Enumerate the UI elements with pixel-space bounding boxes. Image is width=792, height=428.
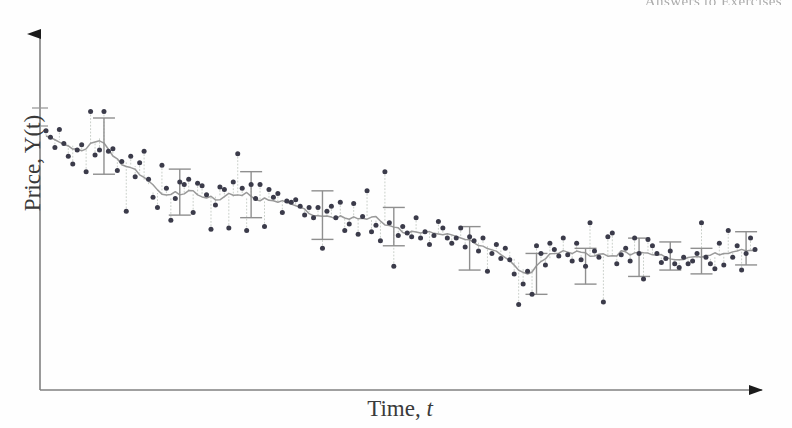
observation-marker (574, 241, 579, 246)
observation-marker (101, 109, 106, 114)
observation-marker (405, 231, 410, 236)
observation-marker (168, 218, 173, 223)
error-bars-layer (93, 118, 757, 294)
observation-marker (182, 182, 187, 187)
observation-marker (467, 234, 472, 239)
observation-marker (119, 159, 124, 164)
observation-marker (418, 236, 423, 241)
observation-marker (503, 246, 508, 251)
observation-marker (293, 197, 298, 202)
observation-marker (735, 243, 740, 248)
observation-marker (485, 269, 490, 274)
observation-marker (48, 135, 53, 140)
observation-marker (258, 182, 263, 187)
observation-marker (266, 187, 271, 192)
observation-marker (253, 196, 258, 201)
observation-marker (431, 233, 436, 238)
observation-marker (641, 277, 646, 282)
observation-marker (521, 282, 526, 287)
observation-marker (672, 261, 677, 266)
observation-marker (142, 149, 147, 154)
observation-marker (516, 302, 521, 307)
observation-marker (324, 209, 329, 214)
observation-marker (601, 300, 606, 305)
observation-marker (231, 179, 236, 184)
observation-marker (244, 228, 249, 233)
observation-marker (249, 182, 254, 187)
observation-marker (208, 227, 213, 232)
observation-marker (579, 257, 584, 262)
x-axis-title-variable: t (426, 396, 432, 421)
observation-marker (708, 261, 713, 266)
observation-marker (329, 204, 334, 209)
observation-marker (382, 169, 387, 174)
observation-marker (458, 225, 463, 230)
observation-marker (52, 145, 57, 150)
observation-marker (552, 247, 557, 252)
observation-marker (289, 200, 294, 205)
observation-marker (333, 215, 338, 220)
observation-marker (427, 242, 432, 247)
observation-marker (534, 243, 539, 248)
observation-marker (619, 252, 624, 257)
observation-marker (494, 242, 499, 247)
observation-marker (632, 236, 637, 241)
observation-marker (222, 187, 227, 192)
observation-marker (690, 259, 695, 264)
observation-marker (146, 177, 151, 182)
observation-marker (472, 238, 477, 243)
observation-marker (423, 229, 428, 234)
observation-marker (213, 202, 218, 207)
observation-marker (695, 251, 700, 256)
observation-marker (311, 215, 316, 220)
observation-marker (637, 251, 642, 256)
observation-marker (547, 241, 552, 246)
observation-marker (744, 251, 749, 256)
figure-container: Answers to Exercises Price, Y(t) Time, t (0, 0, 792, 428)
observation-marker (275, 191, 280, 196)
observation-marker (110, 146, 115, 151)
y-axis-title-text: Price, Y(t) (20, 115, 45, 211)
observation-marker (66, 154, 71, 159)
observation-marker (387, 220, 392, 225)
observation-marker (307, 205, 312, 210)
observation-marker (556, 254, 561, 259)
observation-marker (614, 261, 619, 266)
observation-marker (512, 271, 517, 276)
observation-marker (360, 214, 365, 219)
error-bar (628, 238, 650, 276)
observation-marker (605, 234, 610, 239)
observation-marker (115, 168, 120, 173)
observation-marker (400, 224, 405, 229)
observation-marker (320, 246, 325, 251)
observation-marker (133, 174, 138, 179)
observation-marker (645, 237, 650, 242)
observation-marker (106, 149, 111, 154)
observation-marker (124, 209, 129, 214)
observation-marker (164, 186, 169, 191)
observation-marker (97, 147, 102, 152)
observation-marker (650, 243, 655, 248)
observation-marker (610, 231, 615, 236)
observation-marker (561, 236, 566, 241)
error-bar (459, 227, 481, 270)
observation-marker (262, 224, 267, 229)
observation-marker (204, 192, 209, 197)
observation-marker (79, 142, 84, 147)
observation-marker (356, 232, 361, 237)
observation-marker (480, 236, 485, 241)
observation-marker (57, 127, 62, 132)
observation-marker (240, 186, 245, 191)
observation-marker (739, 268, 744, 273)
observation-marker (677, 265, 682, 270)
observation-marker (436, 219, 441, 224)
observation-marker (409, 234, 414, 239)
observation-marker (186, 177, 191, 182)
observation-marker (699, 220, 704, 225)
observation-marker (191, 210, 196, 215)
observation-marker (298, 204, 303, 209)
observation-marker (628, 259, 633, 264)
observation-marker (159, 163, 164, 168)
observation-marker (570, 259, 575, 264)
observation-marker (663, 256, 668, 261)
